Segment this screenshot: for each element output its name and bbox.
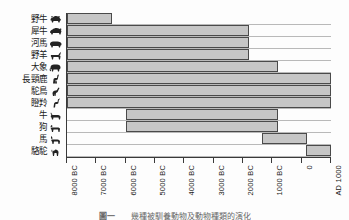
category-label-text: 駝鳥 bbox=[31, 86, 48, 96]
range-bar bbox=[262, 133, 307, 144]
x-axis-tick-label: 3000 BC bbox=[217, 165, 226, 196]
range-bar bbox=[126, 121, 279, 132]
hippopotamus-icon bbox=[49, 38, 62, 49]
category-label-row: 野牛 bbox=[0, 13, 62, 25]
x-axis-tick-label: 6000 BC bbox=[129, 165, 138, 196]
range-bar bbox=[67, 61, 278, 72]
category-label-row: 駝鳥 bbox=[0, 85, 62, 97]
category-label-row: 野羊 bbox=[0, 49, 62, 61]
x-axis-tick-label: 2000 BC bbox=[246, 165, 255, 196]
category-label-row: 馬 bbox=[0, 133, 62, 145]
x-axis-tick bbox=[154, 157, 155, 163]
category-label-text: 野牛 bbox=[31, 14, 48, 24]
category-label-row: 長頸鹿 bbox=[0, 73, 62, 85]
category-label-column: 野牛犀牛河馬野羊大象長頸鹿駝鳥瞪羚牛狗馬駱駝 bbox=[0, 13, 62, 157]
figure-caption: 圖一幾種被馴養動物及動物種類的演化 bbox=[0, 210, 349, 220]
category-label-text: 野羊 bbox=[31, 50, 48, 60]
category-label-row: 瞪羚 bbox=[0, 97, 62, 109]
x-axis-tick bbox=[183, 157, 184, 163]
elephant-icon bbox=[49, 62, 62, 73]
x-axis-tick bbox=[301, 157, 302, 163]
wild-goat-icon bbox=[49, 50, 62, 61]
rhinoceros-icon bbox=[49, 26, 62, 37]
x-axis-tick-label: 4000 BC bbox=[187, 165, 196, 196]
category-label-row: 大象 bbox=[0, 61, 62, 73]
category-label-text: 大象 bbox=[31, 62, 48, 72]
x-axis-tick bbox=[330, 157, 331, 163]
category-label-row: 狗 bbox=[0, 121, 62, 133]
x-axis-tick-label: 5000 BC bbox=[158, 165, 167, 196]
x-axis-tick-label: AD 1000 bbox=[334, 165, 343, 196]
cattle-icon bbox=[49, 110, 62, 121]
figure-caption-number: 圖一 bbox=[99, 212, 115, 220]
x-axis-tick-label: 7000 BC bbox=[99, 165, 108, 196]
x-axis-line bbox=[66, 157, 330, 158]
figure-caption-text: 幾種被馴養動物及動物種類的演化 bbox=[131, 212, 251, 220]
range-bar bbox=[67, 25, 249, 36]
plot-area bbox=[66, 13, 331, 157]
category-label-row: 犀牛 bbox=[0, 25, 62, 37]
x-axis-tick-label: 8000 BC bbox=[70, 165, 79, 196]
x-axis-tick bbox=[125, 157, 126, 163]
camel-icon bbox=[49, 146, 62, 157]
category-label-text: 駱駝 bbox=[31, 146, 48, 156]
range-bar bbox=[306, 145, 331, 156]
category-label-row: 河馬 bbox=[0, 37, 62, 49]
grid-row bbox=[67, 145, 331, 157]
range-bar bbox=[67, 13, 112, 24]
x-axis-tick bbox=[271, 157, 272, 163]
range-bar bbox=[126, 109, 279, 120]
figure-container: 野牛犀牛河馬野羊大象長頸鹿駝鳥瞪羚牛狗馬駱駝 8000 BC7000 BC600… bbox=[0, 0, 349, 220]
ostrich-icon bbox=[49, 86, 62, 97]
category-label-row: 駱駝 bbox=[0, 145, 62, 157]
range-bar bbox=[67, 37, 249, 48]
dog-icon bbox=[49, 122, 62, 133]
category-label-row: 牛 bbox=[0, 109, 62, 121]
x-axis-tick-label: 1000 BC bbox=[275, 165, 284, 196]
range-bar bbox=[67, 49, 249, 60]
x-axis-tick bbox=[66, 157, 67, 163]
x-axis-tick bbox=[213, 157, 214, 163]
range-bar bbox=[67, 73, 331, 84]
gazelle-icon bbox=[49, 98, 62, 109]
category-label-text: 馬 bbox=[39, 134, 48, 144]
x-axis-tick bbox=[242, 157, 243, 163]
category-label-text: 瞪羚 bbox=[31, 98, 48, 108]
giraffe-icon bbox=[49, 74, 62, 85]
x-axis-tick-label: 0 bbox=[305, 165, 314, 169]
x-axis-tick bbox=[95, 157, 96, 163]
range-bar bbox=[67, 97, 331, 108]
category-label-text: 長頸鹿 bbox=[22, 74, 48, 84]
bison-icon bbox=[49, 14, 62, 25]
range-bar bbox=[67, 85, 331, 96]
category-label-text: 狗 bbox=[39, 122, 48, 132]
category-label-text: 牛 bbox=[39, 110, 48, 120]
category-label-text: 河馬 bbox=[31, 38, 48, 48]
category-label-text: 犀牛 bbox=[31, 26, 48, 36]
horse-icon bbox=[49, 134, 62, 145]
